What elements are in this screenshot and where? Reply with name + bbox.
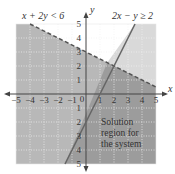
svg-text:3: 3 (77, 47, 82, 57)
svg-text:−4: −4 (25, 95, 35, 105)
svg-text:−1: −1 (67, 95, 77, 105)
svg-text:2: 2 (77, 61, 82, 71)
y-axis-arrow-up-icon (84, 12, 89, 18)
svg-text:4: 4 (140, 95, 145, 105)
svg-text:−2: −2 (53, 95, 63, 105)
svg-text:1: 1 (77, 103, 82, 113)
svg-text:5: 5 (154, 95, 159, 105)
y-axis-label: y (89, 4, 95, 15)
svg-text:3: 3 (77, 131, 82, 141)
solution-line-1: Solution (101, 117, 133, 127)
svg-text:3: 3 (126, 95, 131, 105)
x-axis-arrow-left-icon (4, 92, 10, 97)
inequality-graph: −5 −4 −3 −2 −1 1 2 3 4 5 5 4 3 2 1 1 2 3… (0, 0, 175, 174)
svg-text:4: 4 (77, 33, 82, 43)
svg-text:1: 1 (77, 75, 82, 85)
svg-text:−5: −5 (11, 95, 21, 105)
svg-text:2: 2 (112, 95, 117, 105)
svg-text:5: 5 (77, 159, 82, 169)
x-axis-label: x (167, 83, 173, 94)
svg-text:2: 2 (77, 117, 82, 127)
solution-line-2: region for (101, 128, 140, 138)
inequality-2-label: 2x − y ≥ 2 (112, 10, 153, 21)
origin-label: 0 (80, 94, 85, 104)
inequality-1-label: x + 2y < 6 (21, 10, 64, 21)
svg-text:4: 4 (77, 145, 82, 155)
y-axis-arrow-down-icon (84, 166, 89, 172)
svg-text:1: 1 (98, 95, 103, 105)
svg-text:−3: −3 (39, 95, 49, 105)
solution-line-3: the system (101, 139, 142, 149)
svg-text:5: 5 (77, 19, 82, 29)
